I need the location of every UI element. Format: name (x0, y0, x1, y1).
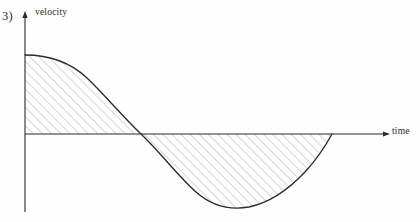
negative-area (135, 128, 340, 218)
figure-number-label: 3) (2, 9, 13, 24)
arrow-up-icon (22, 11, 27, 18)
arrow-right-icon (383, 131, 390, 136)
x-axis-label: time (392, 126, 410, 136)
figure-canvas: 3) velocity time (0, 0, 420, 222)
positive-area (20, 45, 150, 140)
velocity-time-plot (0, 0, 420, 222)
y-axis-label: velocity (35, 7, 67, 17)
